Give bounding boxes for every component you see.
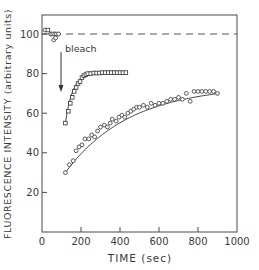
y-tick-label: 80 [26, 68, 39, 79]
circle-marker [145, 105, 149, 109]
circle-marker [181, 97, 185, 101]
circle-marker [153, 103, 157, 107]
y-tick-label: 60 [26, 108, 39, 119]
circle-marker [200, 90, 204, 94]
circle-marker [208, 90, 212, 94]
x-tick-label: 600 [149, 236, 168, 247]
circle-marker [216, 92, 220, 96]
square-marker [72, 90, 76, 94]
circle-marker [105, 125, 109, 129]
circle-marker [54, 36, 58, 40]
circle-marker [123, 115, 127, 119]
circle-marker [165, 99, 169, 103]
circle-marker [87, 137, 91, 141]
x-axis-label: TIME (sec) [107, 252, 172, 264]
circle-marker [212, 90, 216, 94]
x-tick-label: 0 [39, 236, 45, 247]
circle-marker [74, 149, 78, 153]
x-tick-label: 400 [110, 236, 129, 247]
series-pre-bleach [43, 28, 60, 42]
fit-curve [65, 73, 126, 124]
square-marker [68, 102, 72, 106]
x-tick-label: 800 [188, 236, 207, 247]
x-axis-ticks: 02004006008001000 [39, 227, 250, 247]
circle-marker [64, 171, 68, 175]
y-tick-label: 100 [20, 29, 39, 40]
circle-marker [204, 90, 208, 94]
circle-marker [93, 135, 97, 139]
circle-marker [99, 125, 103, 129]
y-tick-label: 40 [26, 147, 39, 158]
circle-marker [138, 105, 142, 109]
circle-marker [83, 137, 87, 141]
circle-marker [149, 101, 153, 105]
square-marker [67, 109, 71, 113]
y-axis-ticks: 20406080100 [20, 29, 47, 198]
chart: 02004006008001000 20406080100 bleach TIM… [0, 0, 259, 270]
x-tick-label: 1000 [224, 236, 249, 247]
circle-marker [80, 143, 84, 147]
square-marker [64, 121, 68, 125]
square-marker [46, 28, 50, 32]
square-marker [124, 71, 128, 75]
circle-marker [110, 117, 114, 121]
circle-marker [177, 95, 181, 99]
circle-marker [114, 119, 118, 123]
circle-marker [71, 159, 75, 163]
circle-marker [169, 97, 173, 101]
annotation-text: bleach [65, 43, 97, 54]
circle-marker [157, 101, 161, 105]
circle-marker [67, 163, 71, 167]
square-marker [70, 96, 74, 100]
x-tick-label: 200 [71, 236, 90, 247]
circle-marker [173, 97, 177, 101]
arrow-down-icon [59, 85, 64, 92]
circle-marker [188, 99, 192, 103]
square-marker [74, 86, 78, 90]
series-slow-recovery [64, 90, 220, 175]
circle-marker [161, 101, 165, 105]
circle-marker [196, 90, 200, 94]
y-axis-label: FLUORESCENCE INTENSITY (arbitrary units) [2, 9, 13, 239]
square-marker [78, 80, 82, 84]
circle-marker [184, 92, 188, 96]
circle-marker [192, 90, 196, 94]
y-tick-label: 20 [26, 187, 39, 198]
circle-marker [96, 129, 100, 133]
circle-marker [108, 121, 112, 125]
circle-marker [57, 32, 61, 36]
circle-marker [142, 103, 146, 107]
